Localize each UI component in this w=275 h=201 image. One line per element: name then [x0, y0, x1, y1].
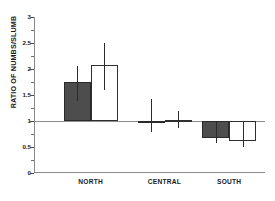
error-bar-central-filled — [151, 99, 152, 133]
y-tick-mark-minor — [31, 108, 34, 109]
y-tick-mark — [30, 121, 34, 122]
y-tick-mark-minor — [31, 82, 34, 83]
y-tick-mark — [30, 17, 34, 18]
y-tick-mark-minor — [31, 56, 34, 57]
error-bar-south-filled — [216, 121, 217, 143]
x-axis-category-labels: NORTHCENTRALSOUTH — [34, 178, 265, 190]
y-axis-line — [34, 17, 35, 173]
y-tick-mark-minor — [31, 30, 34, 31]
x-axis-line — [34, 172, 265, 173]
plot-area — [34, 17, 265, 173]
y-tick-label: 0 — [11, 170, 31, 176]
y-tick-mark — [30, 43, 34, 44]
error-bar-south-open — [243, 121, 244, 147]
x-category-label-north: NORTH — [51, 178, 131, 185]
y-tick-mark-minor — [31, 160, 34, 161]
y-tick-mark-minor — [31, 134, 34, 135]
y-tick-label: 2 — [11, 66, 31, 72]
y-tick-label: 0.5 — [11, 144, 31, 150]
error-bar-north-filled — [77, 66, 78, 101]
y-tick-mark — [30, 173, 34, 174]
y-tick-mark — [30, 147, 34, 148]
chart-figure: RATIO OF NUMBS/SLUMB 00.511.522.53 NORTH… — [0, 0, 275, 201]
x-category-label-south: SOUTH — [189, 178, 269, 185]
y-tick-mark — [30, 95, 34, 96]
y-tick-label: 1.5 — [11, 92, 31, 98]
y-tick-mark — [30, 69, 34, 70]
error-bar-central-open — [178, 111, 179, 128]
error-bar-north-open — [104, 43, 105, 90]
y-tick-label: 3 — [11, 14, 31, 20]
y-tick-label: 1 — [11, 118, 31, 124]
y-axis-tick-labels: 00.511.522.53 — [6, 0, 31, 201]
y-tick-label: 2.5 — [11, 40, 31, 46]
